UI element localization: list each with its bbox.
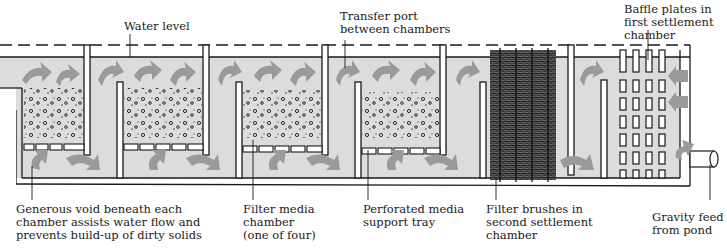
label-transfer-port: Transfer port between chambers — [340, 10, 450, 36]
label-gravity-feed: Gravity feed from pond — [652, 211, 724, 237]
label-perforated-tray: Perforated media support tray — [363, 203, 464, 229]
label-filter-media-chamber: Filter media chamber (one of four) — [243, 203, 316, 242]
label-water-level: Water level — [124, 20, 190, 33]
filter-brushes — [490, 48, 556, 182]
label-generous-void: Generous void beneath each chamber assis… — [16, 203, 202, 242]
label-baffle-plates: Baffle plates in first settlement chambe… — [624, 3, 714, 42]
label-filter-brushes: Filter brushes in second settlement cham… — [486, 203, 593, 242]
inlet-pipe — [690, 151, 718, 167]
